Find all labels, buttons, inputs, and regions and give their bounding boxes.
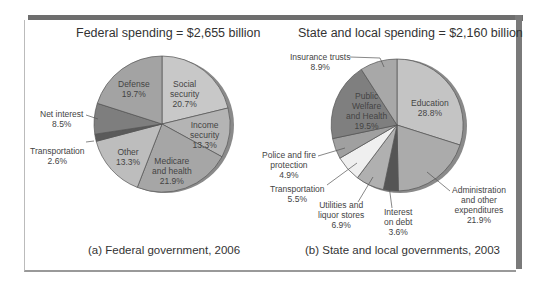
label-administration: Administration and other expenditures 21… — [452, 185, 506, 225]
label-pct: 13.3% — [116, 157, 140, 167]
label-name: and Health — [346, 111, 387, 121]
label-defense: Defense 19.7% — [118, 79, 150, 99]
label-police: Police and fire protection 4.9% — [262, 150, 316, 180]
label-name: Public — [346, 91, 387, 101]
label-name: expenditures — [452, 205, 506, 215]
label-pct: 20.7% — [170, 99, 199, 109]
label-pct: 21.9% — [452, 215, 506, 225]
label-transportation-state: Transportation 5.5% — [270, 184, 325, 204]
label-income-security: Income security 13.3% — [190, 120, 219, 150]
label-pct: 3.6% — [384, 227, 412, 237]
label-name: and other — [452, 195, 506, 205]
label-name: Net interest — [40, 109, 83, 119]
label-interest-on-debt: Interest on debt 3.6% — [384, 207, 412, 237]
federal-title: Federal spending = $2,655 billion — [76, 26, 261, 40]
state-pie — [318, 57, 467, 208]
label-name: Transportation — [30, 146, 85, 156]
label-transportation-federal: Transportation 2.6% — [30, 146, 85, 166]
label-pct: 2.6% — [30, 156, 85, 166]
label-name: Medicare — [152, 156, 192, 166]
label-pct: 6.9% — [318, 220, 364, 230]
label-name: security — [190, 130, 219, 140]
label-pct: 28.8% — [411, 108, 449, 118]
label-name: Social — [170, 79, 199, 89]
label-name: Police and fire — [262, 150, 316, 160]
label-name: liquor stores — [318, 210, 364, 220]
label-name: Administration — [452, 185, 506, 195]
label-pct: 4.9% — [262, 170, 316, 180]
label-pct: 5.5% — [270, 194, 325, 204]
label-pct: 8.9% — [290, 62, 350, 72]
federal-caption: (a) Federal government, 2006 — [88, 244, 240, 256]
label-name: security — [170, 89, 199, 99]
label-pct: 8.5% — [40, 119, 83, 129]
label-medicare: Medicare and health 21.9% — [152, 156, 192, 186]
label-pct: 21.9% — [152, 176, 192, 186]
label-net-interest: Net interest 8.5% — [40, 109, 83, 129]
label-name: Education — [411, 98, 449, 108]
label-name: Insurance trusts — [290, 52, 350, 62]
label-education: Education 28.8% — [411, 98, 449, 118]
label-pct: 19.7% — [118, 89, 150, 99]
label-utilities: Utilities and liquor stores 6.9% — [318, 200, 364, 230]
label-pct: 13.3% — [190, 140, 219, 150]
label-name: Income — [190, 120, 219, 130]
state-title: State and local spending = $2,160 billio… — [298, 26, 523, 40]
label-name: Transportation — [270, 184, 325, 194]
label-name: Other — [116, 147, 140, 157]
label-name: Utilities and — [318, 200, 364, 210]
label-insurance-trusts: Insurance trusts 8.9% — [290, 52, 350, 72]
label-welfare: Public Welfare and Health 19.5% — [346, 91, 387, 131]
label-name: Welfare — [346, 101, 387, 111]
label-name: Interest — [384, 207, 412, 217]
label-name: on debt — [384, 217, 412, 227]
state-caption: (b) State and local governments, 2003 — [305, 244, 500, 256]
label-other: Other 13.3% — [116, 147, 140, 167]
label-name: and health — [152, 166, 192, 176]
label-social-security: Social security 20.7% — [170, 79, 199, 109]
label-name: Defense — [118, 79, 150, 89]
pie-charts — [0, 0, 548, 281]
label-name: protection — [262, 160, 316, 170]
label-pct: 19.5% — [346, 121, 387, 131]
